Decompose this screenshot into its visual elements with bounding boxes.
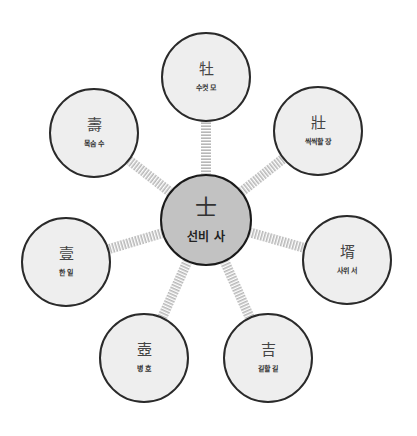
node-meaning: 병 호 [137, 363, 151, 373]
node-hanja: 壽 [87, 118, 102, 133]
node-hanja: 壻 [340, 245, 355, 260]
node-meaning: 한 일 [59, 267, 73, 277]
connector [220, 260, 254, 319]
center-hanja: 士 [195, 197, 217, 219]
connector [126, 157, 172, 196]
node-hanja: 壺 [137, 343, 152, 358]
node-jang: 壯 씩씩할 장 [273, 86, 363, 176]
center-meaning: 선비 사 [187, 227, 224, 244]
node-hanja: 壯 [311, 116, 326, 131]
center-node: 士 선비 사 [160, 174, 252, 266]
node-gil: 吉 길할 길 [223, 313, 313, 403]
node-meaning: 길할 길 [258, 363, 278, 373]
connector [158, 260, 192, 319]
node-hanja: 牡 [199, 62, 214, 77]
node-hanja: 壹 [59, 247, 74, 262]
node-meaning: 목숨 수 [84, 138, 104, 148]
node-meaning: 씩씩할 장 [305, 136, 331, 146]
node-meaning: 사위 서 [337, 265, 357, 275]
node-seo: 壻 사위 서 [302, 215, 392, 305]
node-ho: 壺 병 호 [99, 313, 189, 403]
node-il: 壹 한 일 [21, 217, 111, 307]
node-meaning: 수컷 모 [196, 82, 216, 92]
node-mo: 牡 수컷 모 [161, 32, 251, 122]
connector [239, 155, 286, 195]
connector [201, 122, 211, 174]
node-hanja: 吉 [261, 343, 276, 358]
connector [249, 228, 305, 253]
connector [108, 228, 164, 253]
node-su: 壽 목숨 수 [49, 88, 139, 178]
